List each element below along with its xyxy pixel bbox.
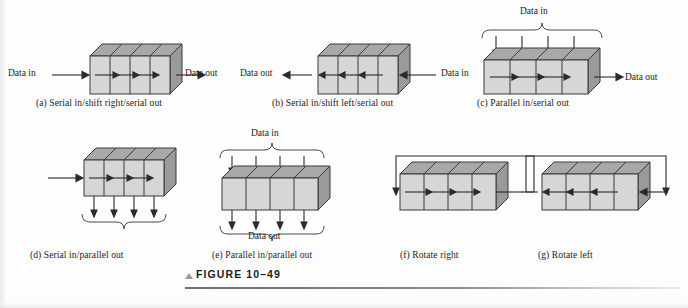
panel-e-parallel-in-parallel-out: Data in Data out: [198, 130, 398, 238]
figure-number-label: FIGURE 10–49: [196, 268, 281, 280]
panel-d-serial-in-parallel-out: Data in Data out: [0, 146, 230, 238]
panel-c-data-in-label: Data in: [520, 6, 548, 16]
data-in-arrow-d: [48, 175, 83, 182]
parallel-output-arrows-d: [91, 196, 157, 217]
data-in-arrow-b: [400, 72, 436, 79]
panel-c-caption bold: (c) Parallel in/serial out: [477, 98, 569, 108]
panel-g-caption bold: (g) Rotate left: [538, 250, 593, 260]
panel-e-data-in-label: Data in: [251, 128, 279, 138]
register-block-c: [484, 48, 600, 94]
panel-a-data-in-label: Data in: [8, 68, 36, 78]
register-block-a: [90, 44, 182, 94]
panel-a-serial-in-shift-right-serial-out: Data in Data out: [0, 24, 240, 94]
feedback-entry-arrow-g: [640, 189, 665, 196]
figure-divider-rule: [185, 287, 680, 289]
register-block-d: [84, 148, 176, 196]
panel-b-data-in-label: Data in: [441, 68, 469, 78]
panel-g-rotate-left: [518, 148, 688, 234]
page-edge-shading-bottom: [0, 302, 688, 308]
register-block-e: [222, 166, 330, 210]
panel-f-caption bold: (f) Rotate right: [400, 250, 459, 260]
panel-e-caption bold: (e) Parallel in/parallel out: [212, 250, 312, 260]
register-block-b: [318, 44, 410, 94]
parallel-in-brace-c: [482, 23, 602, 38]
register-block-g: [542, 162, 650, 210]
panel-e-data-out-label: Data out: [248, 231, 280, 241]
panel-b-data-out-label: Data out: [240, 68, 272, 78]
panel-c-parallel-in-serial-out: Data in Data out: [470, 4, 688, 96]
register-block-f: [400, 162, 508, 210]
panel-b-caption: (b) Serial in/shift left/serial out: [272, 98, 393, 108]
panel-a-caption: (a) Serial in/shift right/serial out: [36, 98, 162, 108]
parallel-output-arrows-e: [229, 210, 307, 229]
data-out-arrow-b: [283, 72, 312, 79]
panel-c-data-out-label: Data out: [625, 72, 657, 82]
figure-container: Data in Data out (a) Serial in/shift rig…: [0, 0, 688, 308]
parallel-in-brace-e: [220, 143, 324, 158]
figure-marker-triangle-up-icon: [185, 273, 193, 279]
panel-b-serial-in-shift-left-serial-out: Data out Data in: [238, 24, 478, 94]
data-in-arrow-a: [52, 72, 89, 79]
panel-d-caption: (d) Serial in/parallel out: [30, 250, 124, 260]
panel-a-data-out-label: Data out: [185, 68, 217, 78]
